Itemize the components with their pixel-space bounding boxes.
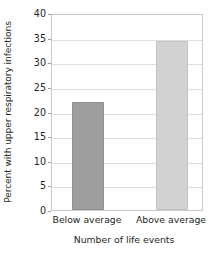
y-tick-label: 40 — [14, 9, 46, 19]
plot-area — [51, 14, 203, 211]
y-tick-label: 15 — [14, 132, 46, 142]
y-tick-label: 10 — [14, 157, 46, 167]
bar — [156, 41, 188, 210]
x-tick-label: Above average — [121, 214, 212, 226]
y-tick-label: 5 — [14, 181, 46, 191]
y-tick-label: 30 — [14, 58, 46, 68]
y-tick-label: 25 — [14, 83, 46, 93]
x-axis-title: Number of life events — [40, 234, 208, 246]
y-tick-label: 20 — [14, 108, 46, 118]
y-tick-label: 35 — [14, 34, 46, 44]
bar-chart-figure: Percent with upper respiratory infection… — [0, 0, 212, 257]
y-tick-mark — [48, 211, 51, 212]
bar — [72, 102, 104, 210]
